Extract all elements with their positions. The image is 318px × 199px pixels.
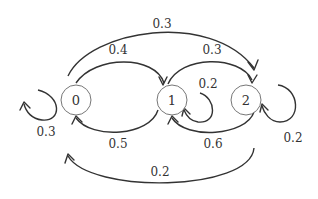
- edge-label-1-0: 0.5: [108, 137, 127, 151]
- node-1: 1: [157, 85, 187, 115]
- arrowhead-icon: [248, 75, 257, 83]
- edge-label-0-0: 0.3: [36, 125, 55, 139]
- arrowhead-icon: [248, 60, 258, 70]
- edge-label-2-2: 0.2: [283, 131, 302, 145]
- node-0: 0: [61, 85, 91, 115]
- edge-0-to-0: 0.3: [20, 90, 57, 139]
- edge-label-0-2: 0.3: [152, 17, 171, 31]
- node-label: 0: [72, 93, 80, 108]
- edge-2-to-1: 0.6: [168, 112, 254, 151]
- markov-chain-diagram: 0.3 0.4 0.3 0.3 0.2 0.2 0.5 0.6: [0, 0, 318, 199]
- edge-label-0-1: 0.4: [108, 43, 127, 57]
- edge-label-1-1: 0.2: [198, 77, 217, 91]
- edge-0-to-1: 0.4: [76, 43, 167, 85]
- node-2: 2: [231, 85, 261, 115]
- edge-label-1-2: 0.3: [202, 43, 221, 57]
- edge-label-2-1: 0.6: [203, 137, 222, 151]
- edge-label-2-0: 0.2: [150, 165, 169, 179]
- edge-1-to-0: 0.5: [72, 110, 158, 151]
- edge-2-to-2: 0.2: [260, 85, 303, 145]
- node-label: 2: [242, 93, 250, 108]
- edge-2-to-0: 0.2: [65, 148, 254, 183]
- node-label: 1: [168, 93, 176, 108]
